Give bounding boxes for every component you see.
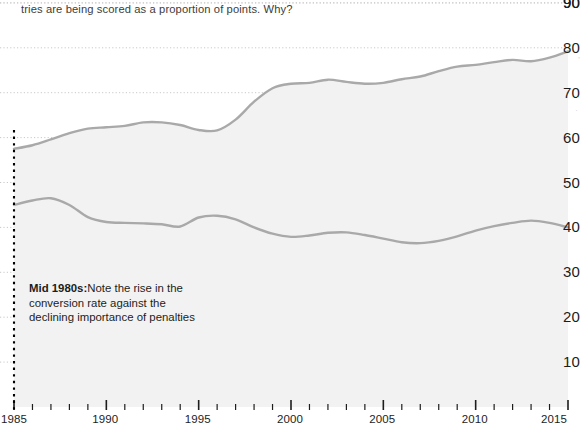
chart-page: tries are being scored as a proportion o…: [0, 0, 586, 428]
annotation-lead: Mid 1980s:: [29, 282, 87, 294]
edge-artifact-glyph: ·: [576, 93, 579, 102]
edge-artifact-glyph: ’: [578, 56, 580, 65]
edge-artifact-glyph: ·: [575, 106, 578, 115]
area-chart-svg: [0, 0, 586, 428]
annotation-callout: Mid 1980s:Note the rise in the conversio…: [29, 281, 195, 325]
chart-plot-area: [0, 0, 586, 428]
